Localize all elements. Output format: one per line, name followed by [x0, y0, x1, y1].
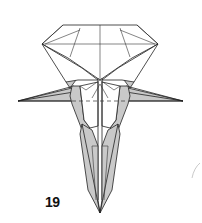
right-wing-point — [126, 86, 183, 101]
origami-diagram — [0, 0, 202, 223]
right-body-flap — [102, 82, 130, 130]
bottom-point — [80, 124, 120, 213]
step-number-label: 19 — [45, 194, 60, 210]
left-wing-point — [18, 86, 74, 101]
left-body-flap — [70, 82, 98, 130]
faint-stray-mark — [192, 163, 200, 178]
